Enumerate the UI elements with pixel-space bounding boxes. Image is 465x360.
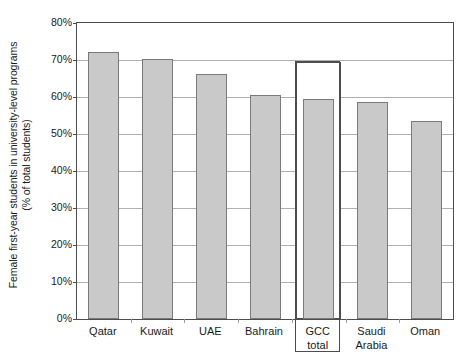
gridline <box>77 60 453 61</box>
y-axis-tick-mark <box>73 97 77 98</box>
y-axis-tick-label: 20% <box>38 239 72 250</box>
x-axis-tick-label-line: Oman <box>389 324 461 338</box>
y-axis-title-line-1: Female first-year students in university… <box>7 42 20 289</box>
y-axis-tick-label: 50% <box>38 128 72 139</box>
y-axis-tick-label: 0% <box>38 313 72 324</box>
bar-kuwait <box>142 59 173 319</box>
y-axis-tick-mark <box>73 319 77 320</box>
y-axis-tick-mark <box>73 60 77 61</box>
bar-bahrain <box>250 95 281 319</box>
y-axis-tick-mark <box>73 208 77 209</box>
y-axis-tick-mark <box>73 134 77 135</box>
y-axis-tick-label: 10% <box>38 276 72 287</box>
x-axis-tick-labels: QatarKuwaitUAEBahrainGCCtotalSaudiArabia… <box>76 322 454 360</box>
y-axis-tick-mark <box>73 23 77 24</box>
y-axis-tick-label: 40% <box>38 165 72 176</box>
bar-saudi-arabia <box>357 102 388 319</box>
y-axis-tick-mark <box>73 245 77 246</box>
y-axis-title: Female first-year students in university… <box>0 0 40 330</box>
y-axis-tick-label: 70% <box>38 54 72 65</box>
bar-qatar <box>88 52 119 319</box>
y-axis-tick-labels: 80%70%60%50%40%30%20%10%0% <box>38 0 72 330</box>
y-axis-tick-label: 30% <box>38 202 72 213</box>
y-axis-tick-label: 80% <box>38 17 72 28</box>
plot-area <box>76 22 454 320</box>
gcc-total-highlight-box <box>295 61 340 352</box>
bar-uae <box>196 74 227 319</box>
bar-oman <box>411 121 442 319</box>
y-axis-title-line-2: (% of total students) <box>20 42 33 289</box>
y-axis-tick-label: 60% <box>38 91 72 102</box>
y-axis-tick-mark <box>73 171 77 172</box>
bar-chart: Female first-year students in university… <box>0 0 465 360</box>
x-axis-tick-label-oman: Oman <box>389 324 461 338</box>
y-axis-tick-mark <box>73 282 77 283</box>
x-axis-tick-label-line: Arabia <box>335 338 407 352</box>
